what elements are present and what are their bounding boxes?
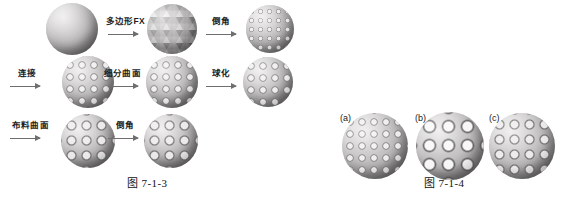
variant-a-label: (a) [340, 113, 351, 123]
sphere-chamfered-fine [246, 5, 294, 53]
variant-b-sphere [416, 112, 484, 180]
sphere-texture [46, 3, 98, 55]
sphere-polygonized [147, 4, 197, 54]
op-label-spherify: 球化 [212, 66, 230, 78]
variant-c-label: (c) [489, 113, 500, 123]
op-label-cloth-surface: 布料曲面 [12, 118, 49, 130]
sphere-texture [246, 5, 294, 53]
figure-page: 多边形FX 倒角 连接 细分曲面 球化 布料曲面 倒角 图 7-1-3 (a) … [0, 0, 562, 202]
sphere-texture [147, 4, 197, 54]
op-label-subdivision: 细分曲面 [104, 66, 141, 78]
sphere-texture [342, 113, 408, 179]
op-label-chamfer-bottom: 倒角 [116, 118, 134, 130]
op-label-polygon-fx: 多边形FX [106, 14, 145, 26]
figure-left-caption: 图 7-1-3 [127, 174, 167, 190]
sphere-spherified [243, 57, 293, 107]
arrow-chamfer-bottom [108, 138, 138, 139]
variant-a-sphere [342, 113, 408, 179]
arrow-connect [10, 86, 40, 87]
sphere-final-chamfered [144, 114, 198, 168]
sphere-texture [144, 114, 198, 168]
sphere-texture [146, 56, 198, 108]
figure-right: (a) (b) (c) 图 7-1-4 [300, 0, 562, 202]
arrow-polygon-fx [108, 34, 138, 35]
arrow-spherify [206, 86, 236, 87]
sphere-subdivided [146, 56, 198, 108]
sphere-texture [243, 57, 293, 107]
sphere-texture [416, 112, 484, 180]
arrow-subdivision [108, 86, 138, 87]
op-label-connect: 连接 [18, 66, 36, 78]
op-label-chamfer-top: 倒角 [212, 14, 230, 26]
sphere-texture [62, 56, 114, 108]
arrow-cloth-surface [10, 138, 40, 139]
sphere-smooth [46, 3, 98, 55]
figure-left: 多边形FX 倒角 连接 细分曲面 球化 布料曲面 倒角 图 7-1-3 [0, 0, 300, 202]
variant-b-label: (b) [415, 113, 426, 123]
sphere-texture [61, 114, 115, 168]
sphere-cloth [61, 114, 115, 168]
figure-right-caption: 图 7-1-4 [424, 174, 464, 190]
arrow-chamfer-top [206, 34, 236, 35]
sphere-connected [62, 56, 114, 108]
